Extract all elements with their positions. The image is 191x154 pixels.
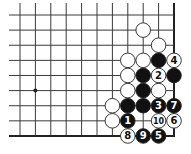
star-point (33, 89, 37, 93)
stone-black-move-9: 9 (136, 129, 151, 144)
white-stone-icon (105, 98, 120, 113)
black-stone-icon (151, 53, 166, 68)
move-number: 6 (171, 115, 178, 126)
stone-black (136, 68, 151, 83)
stone-black-move-7: 7 (167, 98, 182, 113)
stone-white-move-6: 6 (167, 114, 182, 129)
white-stone-icon (121, 83, 136, 98)
stone-black-move-1: 1 (121, 114, 136, 129)
white-stone-icon (151, 83, 166, 98)
stone-black (136, 98, 151, 113)
white-stone-icon (136, 53, 151, 68)
stone-white (121, 83, 136, 98)
stone-white-move-4: 4 (167, 53, 182, 68)
stone-white-move-10: 10 (151, 114, 166, 129)
stone-white (105, 98, 120, 113)
stone-black (151, 53, 166, 68)
stone-white (105, 114, 120, 129)
move-number: 5 (155, 130, 162, 141)
go-board-diagram: 42371106895 (0, 0, 191, 154)
move-number: 10 (153, 117, 165, 126)
stone-black (121, 98, 136, 113)
stone-black (136, 83, 151, 98)
black-stone-icon (136, 98, 151, 113)
white-stone-icon (151, 38, 166, 53)
move-number: 1 (124, 115, 131, 126)
white-stone-icon (105, 114, 120, 129)
white-stone-icon (121, 53, 136, 68)
star-points (33, 89, 37, 93)
stone-white (121, 53, 136, 68)
black-stone-icon (136, 68, 151, 83)
move-number: 9 (140, 130, 147, 141)
black-stone-icon (121, 98, 136, 113)
black-stone-icon (167, 68, 182, 83)
board-grid (9, 3, 175, 136)
stone-black-move-5: 5 (151, 129, 166, 144)
white-stone-icon (136, 23, 151, 38)
white-stone-icon (121, 68, 136, 83)
stone-black-move-3: 3 (151, 98, 166, 113)
stone-white (136, 23, 151, 38)
move-number: 3 (155, 100, 162, 111)
stone-black (167, 68, 182, 83)
move-number: 2 (155, 70, 162, 81)
move-number: 8 (124, 130, 131, 141)
move-number: 4 (171, 55, 178, 66)
stone-white (151, 38, 166, 53)
stone-white (121, 68, 136, 83)
stone-white-move-2: 2 (151, 68, 166, 83)
stone-white-move-8: 8 (121, 129, 136, 144)
stone-white (136, 53, 151, 68)
stone-white (151, 83, 166, 98)
move-number: 7 (171, 100, 178, 111)
black-stone-icon (136, 83, 151, 98)
